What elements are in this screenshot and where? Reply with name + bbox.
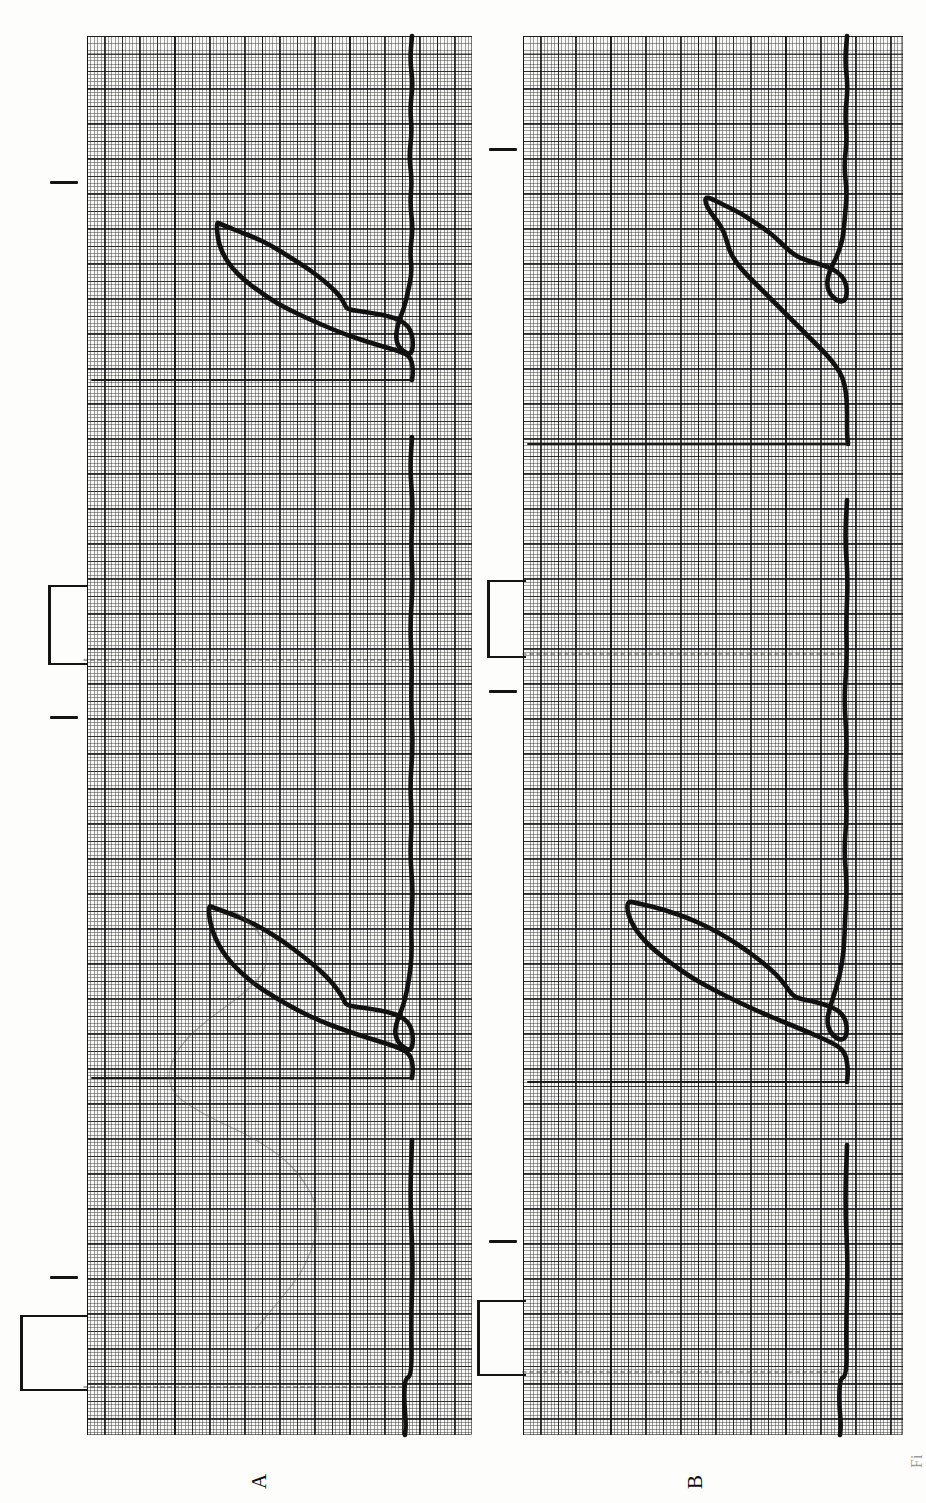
- caption-stub: Fi: [908, 1455, 926, 1468]
- tick-b-3: [489, 1240, 517, 1243]
- trace-path: [839, 1145, 847, 1435]
- bracket-b-2: [477, 1300, 526, 1376]
- trace-path: [627, 500, 847, 1082]
- tick-b-1: [489, 148, 517, 151]
- trace-path: [705, 36, 848, 444]
- panel-b-label: B: [683, 1474, 708, 1489]
- bracket-b-1: [487, 580, 526, 658]
- tick-b-2: [489, 690, 517, 693]
